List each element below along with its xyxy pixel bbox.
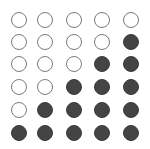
filled-circle-icon	[37, 102, 53, 118]
empty-circle-icon	[123, 12, 139, 28]
empty-circle-icon	[66, 34, 82, 50]
filled-circle-icon	[37, 125, 53, 141]
filled-circle-icon	[94, 79, 110, 95]
filled-circle-icon	[66, 102, 82, 118]
empty-circle-icon	[66, 56, 82, 72]
filled-circle-icon	[66, 79, 82, 95]
empty-circle-icon	[37, 34, 53, 50]
filled-circle-icon	[66, 125, 82, 141]
empty-circle-icon	[94, 12, 110, 28]
filled-circle-icon	[123, 79, 139, 95]
empty-circle-icon	[11, 56, 27, 72]
filled-circle-icon	[123, 125, 139, 141]
empty-circle-icon	[37, 79, 53, 95]
empty-circle-icon	[37, 12, 53, 28]
empty-circle-icon	[66, 12, 82, 28]
filled-circle-icon	[123, 34, 139, 50]
filled-circle-icon	[94, 102, 110, 118]
empty-circle-icon	[37, 56, 53, 72]
empty-circle-icon	[94, 34, 110, 50]
empty-circle-icon	[11, 12, 27, 28]
empty-circle-icon	[11, 79, 27, 95]
filled-circle-icon	[123, 102, 139, 118]
filled-circle-icon	[123, 56, 139, 72]
empty-circle-icon	[11, 102, 27, 118]
filled-circle-icon	[11, 125, 27, 141]
dot-grid	[0, 0, 150, 149]
empty-circle-icon	[11, 34, 27, 50]
filled-circle-icon	[94, 125, 110, 141]
filled-circle-icon	[94, 56, 110, 72]
